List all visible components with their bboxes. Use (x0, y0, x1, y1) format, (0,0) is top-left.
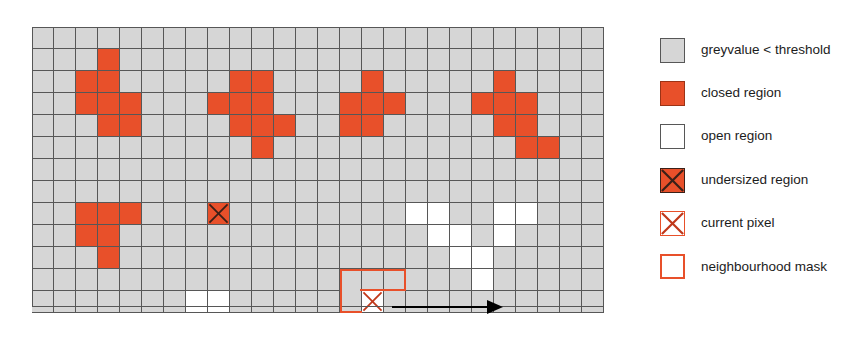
grid-cell[interactable] (54, 71, 76, 93)
grid-cell[interactable] (142, 247, 164, 269)
grid-cell[interactable] (32, 269, 54, 291)
grid-cell[interactable] (230, 159, 252, 181)
grid-cell[interactable] (384, 181, 406, 203)
grid-cell[interactable] (208, 247, 230, 269)
grid-cell[interactable] (582, 203, 604, 225)
grid-cell[interactable] (318, 49, 340, 71)
grid-cell[interactable] (186, 49, 208, 71)
grid-cell[interactable] (340, 225, 362, 247)
grid-cell[interactable] (32, 225, 54, 247)
grid-cell-closed[interactable] (516, 115, 538, 137)
grid-cell[interactable] (472, 181, 494, 203)
grid-cell[interactable] (450, 115, 472, 137)
grid-cell[interactable] (428, 159, 450, 181)
grid-cell[interactable] (164, 203, 186, 225)
grid-cell-open[interactable] (494, 225, 516, 247)
grid-cell[interactable] (340, 181, 362, 203)
grid-cell[interactable] (450, 27, 472, 49)
grid-cell[interactable] (230, 225, 252, 247)
grid-cell-closed[interactable] (252, 115, 274, 137)
grid-cell[interactable] (450, 137, 472, 159)
grid-cell-closed[interactable] (362, 71, 384, 93)
grid-cell[interactable] (252, 225, 274, 247)
grid-cell[interactable] (516, 181, 538, 203)
grid-cell[interactable] (76, 159, 98, 181)
pixel-grid[interactable] (32, 27, 604, 307)
grid-cell[interactable] (230, 137, 252, 159)
grid-cell[interactable] (142, 93, 164, 115)
grid-cell[interactable] (120, 247, 142, 269)
grid-cell-closed[interactable] (494, 71, 516, 93)
grid-cell[interactable] (472, 27, 494, 49)
grid-cell[interactable] (296, 27, 318, 49)
grid-cell[interactable] (208, 27, 230, 49)
grid-cell[interactable] (230, 247, 252, 269)
grid-cell[interactable] (274, 159, 296, 181)
grid-cell-closed[interactable] (362, 93, 384, 115)
grid-cell-closed[interactable] (98, 115, 120, 137)
grid-cell[interactable] (164, 93, 186, 115)
grid-cell-open[interactable] (516, 203, 538, 225)
grid-cell[interactable] (252, 181, 274, 203)
grid-cell[interactable] (428, 27, 450, 49)
grid-cell[interactable] (560, 247, 582, 269)
grid-cell[interactable] (230, 291, 252, 313)
grid-cell[interactable] (120, 49, 142, 71)
grid-cell[interactable] (32, 203, 54, 225)
grid-cell[interactable] (340, 269, 362, 291)
grid-cell[interactable] (406, 181, 428, 203)
grid-cell[interactable] (406, 247, 428, 269)
grid-cell[interactable] (560, 203, 582, 225)
grid-cell-closed[interactable] (472, 93, 494, 115)
grid-cell[interactable] (560, 93, 582, 115)
grid-cell[interactable] (120, 71, 142, 93)
grid-cell[interactable] (384, 27, 406, 49)
grid-cell[interactable] (340, 27, 362, 49)
grid-cell[interactable] (406, 49, 428, 71)
grid-cell[interactable] (384, 115, 406, 137)
grid-cell[interactable] (98, 27, 120, 49)
grid-cell[interactable] (32, 49, 54, 71)
grid-cell[interactable] (582, 159, 604, 181)
grid-cell[interactable] (142, 203, 164, 225)
grid-cell[interactable] (516, 291, 538, 313)
grid-cell[interactable] (472, 203, 494, 225)
grid-cell[interactable] (98, 159, 120, 181)
grid-cell-closed[interactable] (274, 115, 296, 137)
grid-cell[interactable] (252, 291, 274, 313)
grid-cell[interactable] (362, 49, 384, 71)
grid-cell[interactable] (54, 27, 76, 49)
grid-cell-closed[interactable] (120, 203, 142, 225)
grid-cell-closed[interactable] (230, 71, 252, 93)
grid-cell[interactable] (428, 93, 450, 115)
grid-cell[interactable] (384, 225, 406, 247)
grid-cell[interactable] (538, 203, 560, 225)
grid-cell[interactable] (450, 181, 472, 203)
grid-cell[interactable] (296, 269, 318, 291)
grid-cell[interactable] (582, 27, 604, 49)
grid-cell[interactable] (406, 93, 428, 115)
grid-cell[interactable] (142, 115, 164, 137)
grid-cell[interactable] (362, 203, 384, 225)
grid-cell[interactable] (318, 159, 340, 181)
grid-cell-closed[interactable] (98, 203, 120, 225)
grid-cell[interactable] (296, 115, 318, 137)
grid-cell[interactable] (252, 49, 274, 71)
grid-cell[interactable] (494, 27, 516, 49)
grid-cell[interactable] (538, 93, 560, 115)
grid-cell[interactable] (340, 49, 362, 71)
grid-cell-closed[interactable] (494, 115, 516, 137)
grid-cell[interactable] (274, 247, 296, 269)
grid-cell[interactable] (428, 247, 450, 269)
grid-cell[interactable] (164, 27, 186, 49)
grid-cell-closed[interactable] (76, 71, 98, 93)
grid-cell[interactable] (560, 181, 582, 203)
grid-cell[interactable] (362, 225, 384, 247)
grid-cell[interactable] (318, 137, 340, 159)
grid-cell[interactable] (230, 269, 252, 291)
grid-cell[interactable] (582, 71, 604, 93)
grid-cell[interactable] (538, 291, 560, 313)
grid-cell-closed[interactable] (340, 115, 362, 137)
grid-cell[interactable] (164, 291, 186, 313)
grid-cell[interactable] (76, 115, 98, 137)
